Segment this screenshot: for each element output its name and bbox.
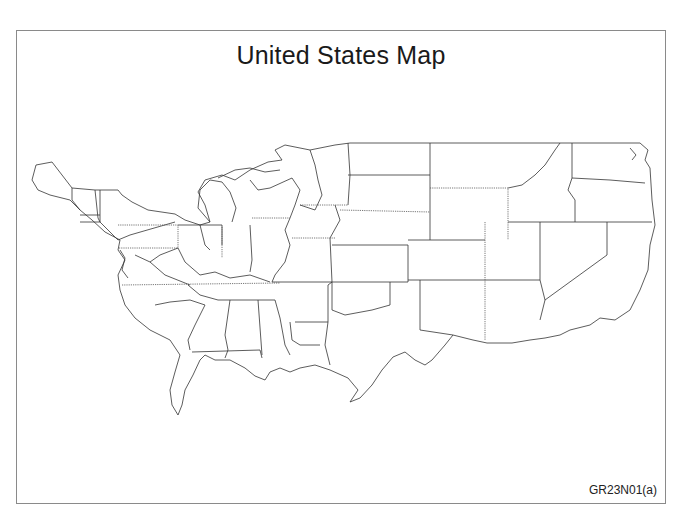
michigan-upper — [218, 168, 280, 178]
nc-sc-border — [155, 300, 205, 305]
ms-river-south — [275, 300, 290, 355]
mississippi-il — [272, 218, 290, 282]
va-nc-tn-border — [122, 283, 280, 285]
sd-ne-border — [340, 210, 430, 212]
ut-nv-border — [508, 222, 540, 280]
wv-border — [135, 248, 178, 262]
ar-outline — [295, 285, 328, 322]
in-il-border — [250, 225, 252, 272]
mn-nd-border — [348, 143, 350, 205]
ny-pa-border — [100, 222, 175, 240]
va-ky-border — [150, 262, 190, 285]
us-outline — [32, 143, 655, 415]
ia-ne-border — [330, 205, 340, 238]
ky-border — [178, 248, 270, 282]
la-border — [290, 322, 320, 345]
la-tx-border — [325, 322, 330, 365]
nm-tx-border — [420, 280, 453, 335]
sc-ga-border — [188, 305, 205, 350]
tn-south-border — [188, 285, 275, 300]
ks-outline — [332, 245, 408, 282]
nv-ca-border — [545, 222, 607, 300]
wisconsin — [250, 178, 300, 218]
oh-in-border — [178, 225, 222, 245]
mt-id-border — [508, 143, 560, 188]
mo-ks-border — [328, 238, 332, 285]
mn-wi-border — [300, 150, 322, 210]
oh-border — [200, 225, 210, 250]
fl-border — [192, 350, 262, 358]
oklahoma — [332, 282, 390, 315]
vt-nh-border — [95, 190, 100, 222]
wa-or-border — [572, 178, 645, 183]
us-map-mirrored — [0, 0, 679, 508]
ga-al-border — [225, 300, 230, 358]
az-ca-border — [540, 280, 545, 320]
wy-outline — [430, 188, 508, 240]
michigan-lower — [198, 180, 236, 222]
al-ms-border — [258, 300, 262, 355]
nh-border — [72, 188, 80, 210]
id-or-border — [568, 143, 575, 222]
puget-sound — [630, 148, 636, 160]
